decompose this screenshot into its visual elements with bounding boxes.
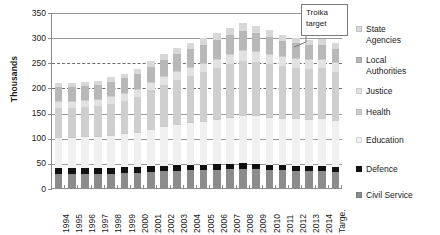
bar-segment[interactable]: [160, 54, 168, 60]
bar-segment[interactable]: [266, 170, 274, 189]
bar-group[interactable]: [279, 35, 287, 189]
bar-segment[interactable]: [134, 74, 142, 89]
bar-segment[interactable]: [68, 168, 76, 175]
bar-segment[interactable]: [160, 166, 168, 172]
bar-segment[interactable]: [121, 167, 129, 173]
bar-segment[interactable]: [318, 39, 326, 45]
bar-segment[interactable]: [55, 174, 63, 189]
bar-segment[interactable]: [55, 137, 63, 168]
bar-segment[interactable]: [121, 101, 129, 134]
bar-segment[interactable]: [68, 101, 76, 108]
bar-segment[interactable]: [266, 64, 274, 116]
bar-segment[interactable]: [147, 166, 155, 172]
bar-segment[interactable]: [213, 164, 221, 170]
bar-segment[interactable]: [187, 165, 195, 171]
bar-segment[interactable]: [279, 118, 287, 166]
bar-segment[interactable]: [147, 61, 155, 67]
bar-group[interactable]: [121, 74, 129, 189]
bar-segment[interactable]: [252, 164, 260, 170]
bar-segment[interactable]: [266, 54, 274, 65]
bar-segment[interactable]: [279, 56, 287, 66]
bar-segment[interactable]: [160, 76, 168, 85]
bar-segment[interactable]: [305, 166, 313, 171]
bar-segment[interactable]: [292, 166, 300, 171]
bar-segment[interactable]: [134, 69, 142, 74]
bar-group[interactable]: [292, 38, 300, 189]
bar-segment[interactable]: [173, 124, 181, 165]
bar-segment[interactable]: [332, 167, 340, 172]
bar-segment[interactable]: [121, 78, 129, 93]
bar-segment[interactable]: [107, 104, 115, 135]
bar-segment[interactable]: [173, 171, 181, 189]
bar-segment[interactable]: [121, 93, 129, 101]
bar-segment[interactable]: [160, 126, 168, 166]
bar-segment[interactable]: [252, 169, 260, 189]
bar-group[interactable]: [239, 23, 247, 189]
bar-segment[interactable]: [68, 137, 76, 168]
bar-segment[interactable]: [173, 165, 181, 171]
bar-segment[interactable]: [134, 97, 142, 132]
bar-segment[interactable]: [226, 64, 234, 116]
bar-segment[interactable]: [239, 115, 247, 164]
bar-segment[interactable]: [55, 83, 63, 87]
bar-segment[interactable]: [94, 81, 102, 85]
bar-segment[interactable]: [94, 174, 102, 189]
bar-segment[interactable]: [239, 61, 247, 115]
bar-group[interactable]: [187, 43, 195, 189]
bar-segment[interactable]: [81, 82, 89, 86]
bar-segment[interactable]: [55, 101, 63, 108]
bar-segment[interactable]: [55, 87, 63, 101]
bar-segment[interactable]: [187, 49, 195, 67]
bar-group[interactable]: [134, 69, 142, 189]
bar-segment[interactable]: [187, 122, 195, 165]
bar-segment[interactable]: [200, 63, 208, 72]
bar-group[interactable]: [173, 48, 181, 189]
bar-segment[interactable]: [107, 96, 115, 104]
bar-segment[interactable]: [318, 68, 326, 118]
bar-segment[interactable]: [94, 99, 102, 106]
bar-group[interactable]: [55, 83, 63, 189]
bar-segment[interactable]: [68, 83, 76, 87]
bar-segment[interactable]: [200, 170, 208, 189]
bar-segment[interactable]: [55, 168, 63, 175]
bar-segment[interactable]: [81, 107, 89, 137]
bar-group[interactable]: [200, 38, 208, 189]
bar-segment[interactable]: [160, 85, 168, 126]
bar-segment[interactable]: [94, 136, 102, 168]
bar-segment[interactable]: [147, 129, 155, 167]
bar-segment[interactable]: [160, 60, 168, 77]
legend-item[interactable]: Justice: [356, 86, 440, 97]
bar-segment[interactable]: [55, 108, 63, 137]
bar-segment[interactable]: [252, 33, 260, 52]
bar-segment[interactable]: [160, 171, 168, 189]
bar-segment[interactable]: [239, 169, 247, 189]
bar-segment[interactable]: [81, 86, 89, 100]
bar-segment[interactable]: [318, 118, 326, 166]
bar-segment[interactable]: [213, 33, 221, 40]
bar-segment[interactable]: [279, 165, 287, 170]
bar-segment[interactable]: [187, 67, 195, 76]
bar-segment[interactable]: [213, 170, 221, 189]
bar-segment[interactable]: [107, 174, 115, 189]
bar-segment[interactable]: [239, 163, 247, 169]
bar-segment[interactable]: [81, 168, 89, 175]
bar-segment[interactable]: [292, 171, 300, 189]
bar-segment[interactable]: [292, 58, 300, 68]
bar-segment[interactable]: [187, 43, 195, 50]
bar-group[interactable]: [318, 39, 326, 189]
bar-segment[interactable]: [318, 45, 326, 59]
bar-segment[interactable]: [279, 66, 287, 117]
bar-segment[interactable]: [266, 165, 274, 170]
bar-segment[interactable]: [81, 136, 89, 168]
bar-segment[interactable]: [213, 40, 221, 59]
bar-segment[interactable]: [94, 85, 102, 99]
bar-segment[interactable]: [200, 121, 208, 165]
bar-segment[interactable]: [266, 117, 274, 165]
bar-segment[interactable]: [252, 51, 260, 62]
bar-segment[interactable]: [305, 59, 313, 69]
bar-segment[interactable]: [147, 67, 155, 83]
bar-segment[interactable]: [305, 171, 313, 189]
bar-segment[interactable]: [147, 172, 155, 189]
bar-segment[interactable]: [279, 41, 287, 57]
bar-segment[interactable]: [239, 50, 247, 61]
